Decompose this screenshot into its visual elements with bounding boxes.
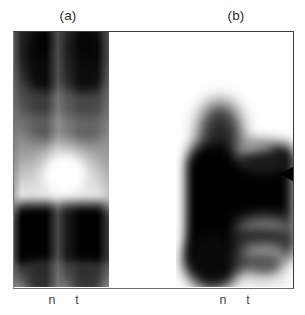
- panel-b-lane-t-lower-light-3: [240, 270, 288, 286]
- panel-label-a: (a): [44, 8, 92, 23]
- panel-b-gel-image: [176, 32, 294, 287]
- arrowhead-icon: [279, 167, 293, 181]
- blot-frame: [13, 31, 294, 289]
- panel-a-lane-label-t: t: [69, 293, 85, 307]
- panel-label-b: (b): [212, 8, 260, 23]
- panel-b-lane-label-t: t: [240, 293, 256, 307]
- panel-b-lane-label-n: n: [215, 293, 231, 307]
- panel-a-lane-label-n: n: [44, 293, 60, 307]
- panel-a-gel-image: [14, 32, 109, 287]
- panel-b-lane-t-smudge: [252, 258, 278, 272]
- figure-autoradiograph: (a) (b): [0, 0, 305, 315]
- panel-a-lane-modulation: [14, 32, 109, 287]
